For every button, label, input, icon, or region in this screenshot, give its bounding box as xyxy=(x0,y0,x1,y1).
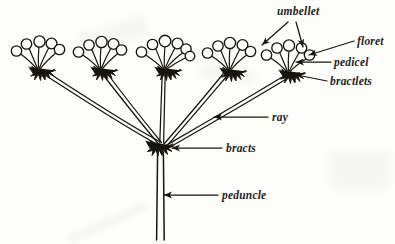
bractlets-1 xyxy=(29,67,56,81)
ray-group xyxy=(43,71,286,149)
floret xyxy=(34,36,45,47)
diagram-canvas: umbellet floret pedicel bractlets ray br… xyxy=(0,0,395,244)
umbel-illustration xyxy=(0,0,395,244)
ray-5 xyxy=(166,77,286,149)
floret xyxy=(224,37,235,48)
floret xyxy=(116,45,126,55)
floret xyxy=(136,47,146,57)
ray-4 xyxy=(164,74,227,146)
leader-lines xyxy=(164,22,354,195)
floret xyxy=(283,40,294,51)
floret xyxy=(96,36,107,47)
umbellet-leader-left xyxy=(262,22,288,45)
floret xyxy=(261,50,271,60)
floret xyxy=(159,35,171,47)
floret xyxy=(21,39,31,49)
ray-1 xyxy=(43,71,160,145)
label-ray: ray xyxy=(272,112,288,124)
bractlets-2 xyxy=(91,67,118,81)
label-bractlets: bractlets xyxy=(330,76,372,88)
plant-drawing xyxy=(11,35,314,240)
floret xyxy=(73,47,83,57)
label-pedicel: pedicel xyxy=(334,57,369,69)
floret-leader xyxy=(309,41,354,55)
floret xyxy=(147,39,157,49)
umbellet-3 xyxy=(136,35,195,80)
peduncle-stem xyxy=(157,152,165,240)
floret-group-3 xyxy=(136,35,195,61)
floret xyxy=(202,48,212,58)
label-peduncle: peduncle xyxy=(222,190,266,202)
floret xyxy=(54,44,64,54)
umbellet-2 xyxy=(73,36,126,80)
floret xyxy=(11,46,21,56)
umbellet-4 xyxy=(202,37,255,81)
floret xyxy=(272,43,282,53)
ray-2 xyxy=(102,71,162,145)
floret xyxy=(185,51,195,61)
floret xyxy=(213,41,223,51)
label-floret: floret xyxy=(357,36,384,48)
label-umbellet: umbellet xyxy=(277,6,320,18)
ray-3 xyxy=(160,74,165,143)
umbellet-1 xyxy=(11,36,64,81)
floret xyxy=(84,40,94,50)
label-bracts: bracts xyxy=(226,143,256,155)
floret xyxy=(245,46,255,56)
